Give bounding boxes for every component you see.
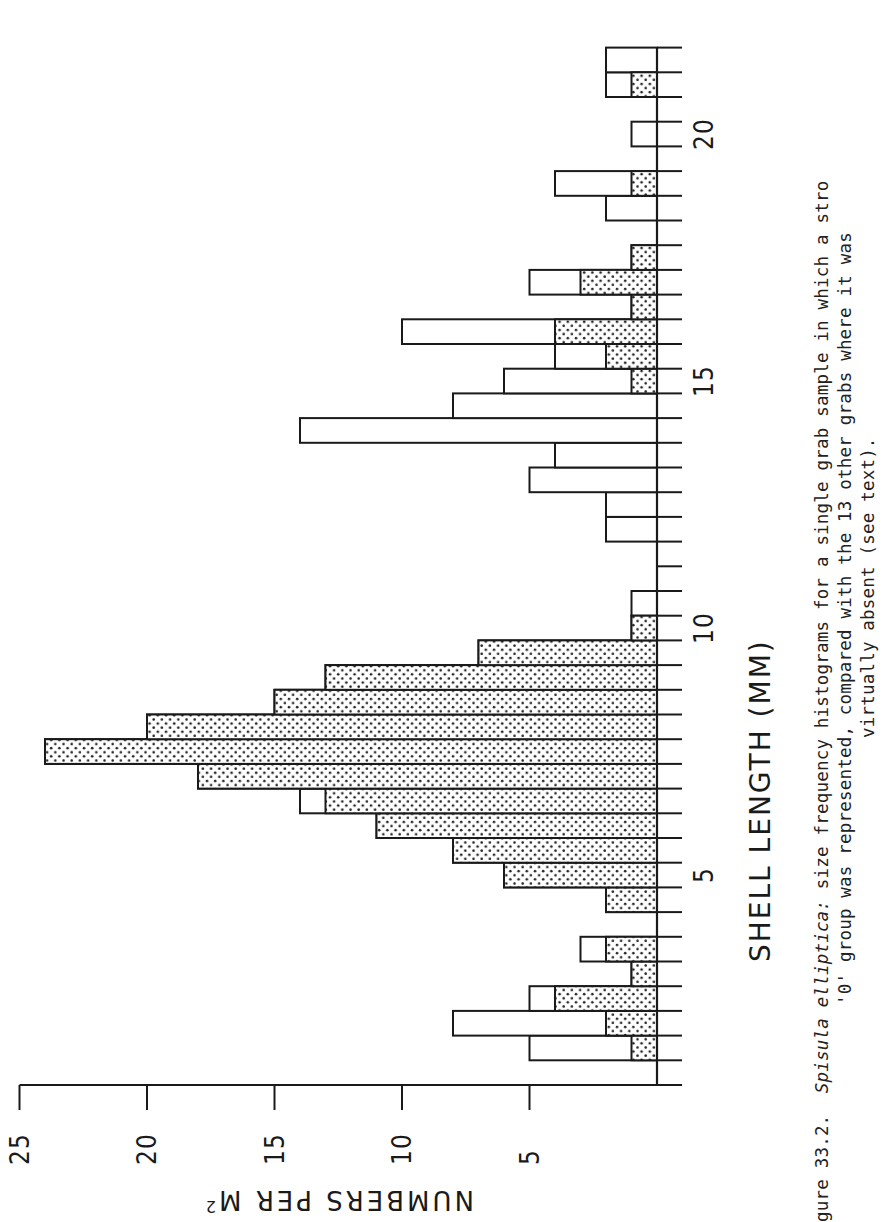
open-bar [606, 48, 657, 73]
stippled-bar [581, 270, 658, 295]
caption-text-3: virtually absent (see text). [858, 437, 878, 738]
stippled-bar [198, 764, 657, 789]
stippled-bar [632, 616, 658, 641]
stippled-bar [275, 690, 658, 715]
open-bars-series [45, 48, 657, 1061]
open-bar [632, 122, 658, 147]
count-axis-tick-label: 15 [260, 1133, 290, 1165]
stippled-bar [555, 986, 657, 1011]
figure-caption-line-1: gure 33.2. Spisula elliptica: size frequ… [812, 181, 832, 1222]
length-axis-tick-label: 5 [689, 867, 719, 883]
stippled-bar [147, 715, 657, 740]
stippled-bar [606, 887, 657, 912]
figure-label: gure 33.2. [812, 1115, 832, 1222]
stippled-bar [632, 72, 658, 97]
stippled-bar [632, 295, 658, 320]
length-axis-title: SHELL LENGTH (MM) [744, 639, 777, 962]
count-axis-title-text: NUMBERS PER M [216, 1185, 474, 1215]
figure-caption-line-2: '0' group was represented, compared with… [835, 232, 855, 1005]
length-axis-tick-label: 10 [689, 612, 719, 644]
length-axis-tick-label: 15 [689, 365, 719, 397]
stippled-bar [453, 838, 657, 863]
count-axis-tick-label: 10 [387, 1133, 417, 1165]
stippled-bar [45, 739, 657, 764]
stippled-bar [632, 369, 658, 394]
stippled-bar [606, 344, 657, 369]
stippled-bar [632, 171, 658, 196]
open-bar [632, 591, 658, 616]
stippled-bar [632, 1036, 658, 1061]
stippled-bar [606, 937, 657, 962]
caption-text-2: '0' group was represented, compared with… [835, 232, 855, 1005]
count-axis-title: NUMBERS PER M2 [203, 1185, 474, 1216]
open-bar [606, 517, 657, 542]
stippled-bar [555, 319, 657, 344]
open-bar [453, 393, 657, 418]
caption-text-1: size frequency histograms for a single g… [812, 181, 832, 900]
open-bar [606, 492, 657, 517]
count-axis-tick-label: 20 [132, 1133, 162, 1165]
stippled-bar [326, 665, 658, 690]
figure-caption-line-3: virtually absent (see text). [858, 437, 878, 738]
count-axis-title-superscript: 2 [203, 1197, 216, 1216]
stippled-bar [326, 789, 658, 814]
stippled-bars-series [45, 72, 657, 1060]
open-bar [300, 418, 657, 443]
stippled-bar [504, 863, 657, 888]
stippled-bar [479, 640, 658, 665]
open-bar [555, 443, 657, 468]
stippled-bar [632, 962, 658, 987]
length-axis-tick-label: 20 [689, 118, 719, 150]
count-axis-tick-label: 5 [515, 1149, 545, 1165]
species-name: Spisula elliptica: [812, 900, 832, 1093]
stippled-bar [606, 1011, 657, 1036]
stippled-bar [632, 245, 658, 270]
count-axis-tick-label: 25 [5, 1133, 35, 1165]
stippled-bar [377, 813, 658, 838]
length-axis-title-text: SHELL LENGTH (MM) [744, 639, 777, 962]
open-bar [530, 468, 658, 493]
open-bar [606, 196, 657, 221]
